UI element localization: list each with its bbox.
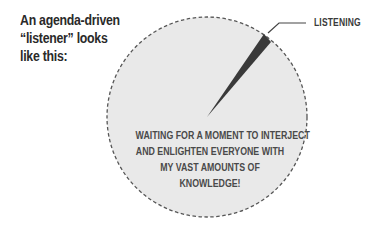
body-line-4: KNOWLEDGE! — [136, 175, 285, 191]
leader-line — [268, 23, 306, 33]
body-line-2: AND ENLIGHTEN EVERYONE WITH — [136, 143, 285, 159]
circle-body-text: WAITING FOR A MOMENT TO INTERJECT AND EN… — [117, 127, 303, 191]
listening-label: LISTENING — [314, 17, 361, 28]
listening-pie-diagram — [0, 0, 375, 228]
body-line-1: WAITING FOR A MOMENT TO INTERJECT — [136, 127, 285, 143]
body-line-3: MY VAST AMOUNTS OF — [136, 159, 285, 175]
